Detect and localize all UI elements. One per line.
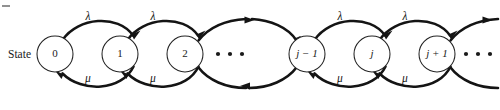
- right-ellipsis: [464, 52, 492, 56]
- state-node-label-1: 1: [117, 47, 123, 59]
- node-group-j-minus-1[interactable]: j − 1: [289, 36, 325, 72]
- edge-stub-from-jp1-upper: [451, 19, 499, 41]
- ellipsis-dot: [216, 52, 220, 56]
- node-group-j[interactable]: j: [354, 36, 390, 72]
- rate-label-mu-1-0: μ: [84, 72, 91, 85]
- edge-stub-from-jm1-lower: [249, 68, 297, 89]
- rate-label-mu-j-jm1: μ: [336, 72, 343, 85]
- rate-label-lambda-jm1-j: λ: [337, 10, 343, 22]
- rate-label-lambda-0-1: λ: [85, 10, 91, 22]
- ellipsis-dot: [476, 52, 480, 56]
- state-node-label-2: 2: [182, 47, 188, 59]
- rate-label-mu-2-1: μ: [149, 72, 156, 85]
- state-transition-diagram: 0 1 2 j − 1 j j + 1: [0, 0, 500, 110]
- ellipsis-dot: [240, 52, 244, 56]
- node-group-j-plus-1[interactable]: j + 1: [419, 36, 455, 72]
- state-node-label-0: 0: [52, 47, 58, 59]
- rate-label-lambda-j-jp1: λ: [402, 10, 408, 22]
- ellipsis-dot: [488, 52, 492, 56]
- node-group-1[interactable]: 1: [102, 36, 138, 72]
- edge-stub-into-2-lower: [199, 68, 247, 89]
- node-group-0[interactable]: 0: [37, 36, 73, 72]
- arrowhead-stub-from-jp1-upper: [483, 17, 493, 24]
- state-node-label-j-minus-1: j − 1: [294, 47, 317, 59]
- state-row-label: State: [8, 48, 31, 60]
- edge-stub-into-jm1-upper: [252, 19, 297, 41]
- node-group-2[interactable]: 2: [167, 36, 203, 72]
- state-node-label-j-plus-1: j + 1: [424, 47, 447, 59]
- ellipsis-dot: [464, 52, 468, 56]
- edge-stub-into-jp1-lower: [451, 68, 499, 89]
- middle-ellipsis: [216, 52, 244, 56]
- rate-label-mu-jp1-j: μ: [401, 72, 408, 85]
- rate-label-lambda-1-2: λ: [150, 10, 156, 22]
- figure-canvas: 0 1 2 j − 1 j j + 1: [0, 0, 500, 110]
- edge-stub-from-2-upper: [199, 19, 247, 41]
- ellipsis-dot: [228, 52, 232, 56]
